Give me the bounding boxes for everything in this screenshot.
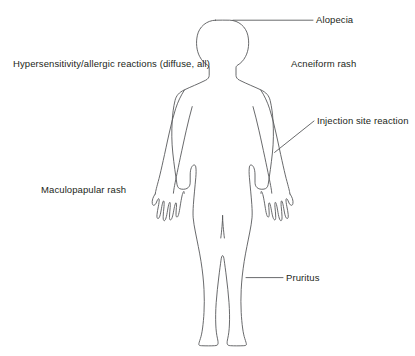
hand-left-outline (152, 191, 184, 220)
leader-line-injection (275, 121, 314, 152)
hand-right-outline (261, 191, 293, 220)
label-alopecia: Alopecia (316, 15, 353, 25)
label-injection-site-reaction: Injection site reaction (317, 116, 409, 126)
label-maculopapular-rash: Maculopapular rash (41, 185, 126, 195)
diagram-canvas: Alopecia Hypersensitivity/allergic react… (0, 0, 415, 356)
label-acneiform-rash: Acneiform rash (291, 59, 356, 69)
label-hypersensitivity: Hypersensitivity/allergic reactions (dif… (13, 59, 210, 69)
crotch-notch-right (223, 216, 225, 238)
label-pruritus: Pruritus (286, 273, 320, 283)
body-diagram-svg (0, 0, 415, 356)
arm-right-outline (261, 90, 290, 194)
arm-left-outline (155, 90, 184, 194)
